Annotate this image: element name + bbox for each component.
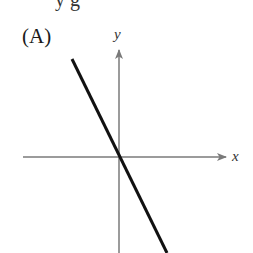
coordinate-graph [0, 0, 253, 253]
x-axis-label: x [232, 149, 239, 164]
y-axis-label: y [114, 27, 121, 42]
